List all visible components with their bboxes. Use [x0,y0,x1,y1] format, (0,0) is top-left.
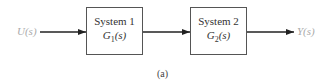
output-signal-label: Y(s) [297,25,315,37]
input-signal-label: U(s) [17,25,37,37]
system-1-transfer-function: G1(s) [103,28,127,47]
figure-caption: (a) [157,68,168,79]
tf-symbol: G [207,29,215,41]
tf-argument: (s) [115,29,127,41]
tf-symbol: G [103,29,111,41]
system-1-title: System 1 [94,14,135,28]
tf-argument: (s) [219,29,231,41]
system-2-title: System 2 [198,14,239,28]
system-2-transfer-function: G2(s) [207,28,231,47]
system-2-block: System 2 G2(s) [190,7,247,55]
system-1-block: System 1 G1(s) [86,7,143,55]
